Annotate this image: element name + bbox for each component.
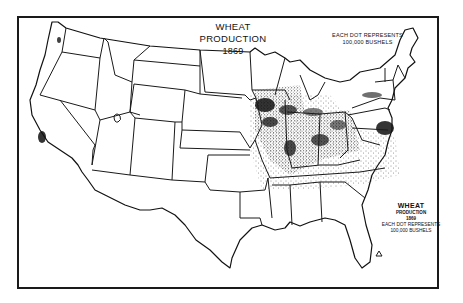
legend-top-line2: 100,000 BUSHELS — [320, 39, 415, 46]
legend-inset: WHEAT PRODUCTION 1869 EACH DOT REPRESENT… — [376, 202, 446, 234]
legend-top-line1: EACH DOT REPRESENTS — [320, 32, 415, 39]
legend-inset-line2: 100,000 BUSHELS — [376, 228, 446, 234]
legend-inset-title: WHEAT — [376, 202, 446, 210]
wheat-dots — [38, 37, 400, 190]
map-year: 1869 — [183, 45, 283, 57]
map-title-text: WHEAT PRODUCTION — [200, 21, 267, 44]
lake-okeechobee — [376, 251, 382, 256]
legend-top: EACH DOT REPRESENTS 100,000 BUSHELS — [320, 32, 415, 46]
map-title: WHEAT PRODUCTION 1869 — [183, 21, 283, 57]
